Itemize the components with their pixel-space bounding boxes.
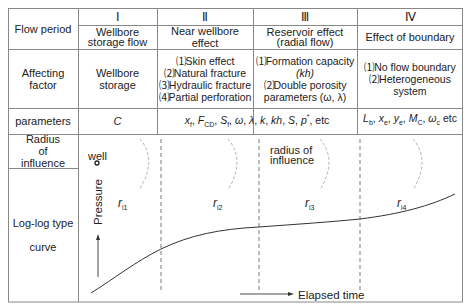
parameters-label: parameters [15,115,71,127]
factor-kh: (kh) [296,67,314,79]
factor-formation-capacity: ⑴Formation capacity [256,55,355,67]
period-numeral-4: Ⅳ [357,8,463,25]
period-name-4: Effect of boundary [357,25,463,49]
affecting-factor-label: Affecting factor [8,67,78,91]
factor-heterogeneous: ⑵Heterogeneous [369,73,451,85]
factor-double-porosity: ⑵Double porosity [264,79,347,91]
flow-period-label: Flow period [15,23,72,35]
radius-arc-4 [413,139,422,190]
affecting-factor-4: ⑴No flow boundary ⑵Heterogeneous system [357,49,463,108]
factor-no-flow-boundary: ⑴No flow boundary [364,61,456,73]
well-label: well [88,150,107,162]
radius-of-influence-label: radius of influence [270,145,314,165]
region-label-1: ri1 [118,197,127,214]
factor-skin-effect: ⑴Skin effect [176,55,235,67]
parameters-1: C [78,108,157,134]
region-3-subscript: i3 [309,204,314,211]
period-name-2: Near wellbore effect [157,25,253,49]
parameters-4: Lb, xe, ye, MC, ωc etc [357,108,463,134]
radius-arc-2 [228,139,237,190]
row-header-affecting-factor: Affecting factor [8,49,78,108]
row-header-log-log: Log-log type curve [8,168,78,302]
period-name-1-line2: storage flow [88,37,147,47]
region-label-3: ri3 [305,197,314,214]
region-label-2: ri2 [213,197,222,214]
arrow-up-icon [96,234,100,240]
parameters-4-text: Lb, xe, ye, MC, ωc etc [363,112,457,129]
period-name-3-line2: (radial flow) [277,37,334,47]
factor-system: system [393,85,426,97]
parameters-2-3: xf, FCD, Sf, ω, λ, k, kh, S, p*, etc [157,108,357,134]
row-header-flow-period: Flow period [8,8,78,49]
factor-natural-fracture: ⑵Natural fracture [164,67,246,79]
radius-label-line2: influence [270,155,314,165]
pressure-axis-label: Pressure [92,177,104,227]
period-name-1: Wellbore storage flow [78,25,157,49]
parameters-2-text: xf, FCD, Sf, ω, λ, k, kh, S, p*, etc [185,111,330,131]
period-name-3: Reservoir effect (radial flow) [253,25,357,49]
region-label-4: ri4 [397,197,406,214]
affecting-factor-2: ⑴Skin effect ⑵Natural fracture ⑶Hydrauli… [157,49,253,108]
log-log-label-line1: Log-log type [13,217,74,229]
radius-of-influence-label: Radius of influence [21,133,65,169]
radius-arc-1 [139,139,149,190]
period-numeral-3: Ⅲ [253,8,357,25]
log-log-label-line2: curve [30,241,57,253]
affecting-factor-3: ⑴Formation capacity (kh) ⑵Double porosit… [253,49,357,108]
period-numeral-1: Ⅰ [78,8,157,25]
affecting-factor-1: Wellbore storage [78,49,157,108]
region-2-subscript: i2 [217,204,222,211]
row-header-parameters: parameters [8,108,78,134]
region-4-subscript: i4 [401,204,406,211]
radius-arc-3 [320,139,329,190]
region-1-subscript: i1 [122,204,127,211]
period-numeral-2: Ⅱ [157,8,253,25]
factor-hydraulic-fracture: ⑶Hydraulic fracture [159,79,251,91]
arrow-right-icon [288,292,294,296]
row-header-radius: Radius of influence [8,134,78,168]
factor-double-porosity-params: parameters (ω, λ) [264,91,346,103]
elapsed-time-axis-label: Elapsed time [298,289,364,301]
factor-partial-perforation: ⑷Partial perforation [159,91,252,103]
